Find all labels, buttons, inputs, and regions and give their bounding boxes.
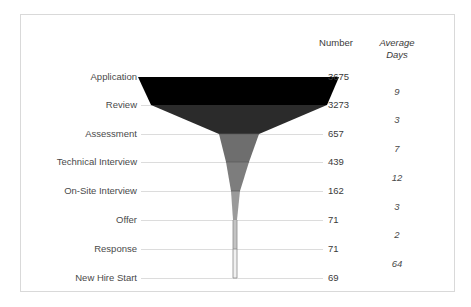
stage-value-offer: 71 xyxy=(328,214,374,225)
average-days-response-to-new-hire-start: 64 xyxy=(369,258,425,269)
stage-label-new-hire-start: New Hire Start xyxy=(0,272,137,283)
stage-value-on-site-interview: 162 xyxy=(328,185,374,196)
funnel-segment-application xyxy=(138,77,339,105)
stage-label-review: Review xyxy=(0,99,137,110)
stage-value-new-hire-start: 69 xyxy=(328,272,374,283)
stage-label-assessment: Assessment xyxy=(0,128,137,139)
average-days-on-site-interview-to-offer: 3 xyxy=(369,201,425,212)
average-days-review-to-assessment: 3 xyxy=(369,114,425,125)
funnel-segment-response xyxy=(233,249,237,278)
stage-label-technical-interview: Technical Interview xyxy=(0,156,137,167)
stage-value-assessment: 657 xyxy=(328,128,374,139)
chart-frame: Number Average Days Application Review A xyxy=(20,14,455,292)
average-days-offer-to-response: 2 xyxy=(369,229,425,240)
funnel-segment-technical-interview xyxy=(226,162,249,191)
stage-value-technical-interview: 439 xyxy=(328,156,374,167)
funnel-segment-on-site-interview xyxy=(231,191,240,220)
stage-value-application: 3675 xyxy=(328,71,374,82)
stage-label-on-site-interview: On-Site Interview xyxy=(0,185,137,196)
average-days-technical-to-on-site-interview: 12 xyxy=(369,172,425,183)
stage-label-response: Response xyxy=(0,243,137,254)
stage-value-response: 71 xyxy=(328,243,374,254)
funnel-segment-assessment xyxy=(219,134,259,162)
stage-value-review: 3273 xyxy=(328,99,374,110)
funnel-segment-offer xyxy=(233,220,237,249)
funnel-segment-review xyxy=(151,105,327,134)
stage-label-application: Application xyxy=(0,71,137,82)
average-days-application-to-review: 9 xyxy=(369,86,425,97)
stage-label-offer: Offer xyxy=(0,214,137,225)
average-days-assessment-to-technical-interview: 7 xyxy=(369,143,425,154)
